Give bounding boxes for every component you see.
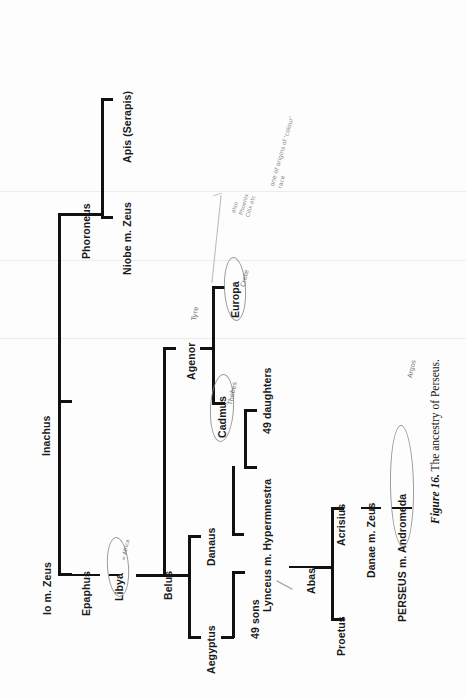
node-epaphus: Epaphus — [81, 571, 92, 616]
edge-to-49-sons — [232, 571, 245, 574]
figure-page: Inachus Phoroneus Io m. Zeus Niobe m. Ze… — [0, 0, 466, 698]
edge-libya-bracket — [163, 347, 166, 576]
annotation-europa-crete: Crete — [239, 269, 251, 288]
annotation-agenor-tyre: Tyre — [190, 306, 202, 322]
edge-aegyptus-join — [221, 636, 234, 639]
node-europa: Europa — [230, 281, 241, 318]
edge-inachus-spine — [58, 400, 61, 576]
pen-mark-lynceus — [276, 580, 292, 589]
annotation-origins-note: one of origins of 'colour' race — [268, 115, 304, 189]
figure-number: Figure 16. — [429, 474, 441, 524]
edge-phoroneus-spine — [58, 213, 61, 402]
annotation-cadmus-thebes: Thebes — [226, 381, 239, 406]
pen-leader-europa — [211, 195, 221, 283]
scan-band — [0, 260, 466, 261]
edge-libya-to-spine — [136, 574, 164, 577]
edge-inachus-to-io — [58, 573, 72, 576]
edge-to-europa — [212, 286, 225, 289]
edge-belus-bracket — [188, 535, 191, 638]
edge-danaus-bracket — [232, 466, 235, 535]
edge-danaus-join — [232, 533, 244, 536]
node-belus: Belus — [163, 571, 174, 600]
node-phoroneus: Phoroneus — [81, 203, 92, 259]
node-niobe-zeus: Niobe m. Zeus — [122, 202, 133, 275]
annotation-phoenix-cilix: also Phoenix Cilix etc — [230, 190, 258, 218]
edge-agenor-join — [200, 347, 214, 350]
node-danae-zeus: Danae m. Zeus — [366, 503, 377, 578]
edge-to-apis — [101, 98, 113, 101]
edge-agenor-bracket — [212, 286, 215, 404]
edge-aegyptus-bracket — [232, 571, 235, 638]
node-aegyptus: Aegyptus — [206, 625, 217, 674]
edge-to-49-daughters — [244, 409, 257, 412]
edge-to-niobe — [101, 216, 113, 219]
figure-caption-text: The ancestry of Perseus. — [429, 359, 441, 474]
edge-to-lynceus — [244, 466, 257, 469]
scan-band — [0, 191, 466, 192]
node-perseus-andromeda: PERSEUS m. Andromeda — [397, 494, 408, 622]
node-io-zeus: Io m. Zeus — [42, 562, 53, 615]
node-agenor: Agenor — [186, 343, 197, 380]
node-apis-serapis: Apis (Serapis) — [122, 91, 133, 163]
edge-phoroneus-bracket — [101, 98, 104, 218]
edge-to-agenor — [163, 347, 176, 350]
node-danaus: Danaus — [206, 527, 217, 566]
edge-abas-bracket — [331, 507, 334, 620]
node-acrisius: Acrisius — [336, 504, 347, 546]
edge-daughters-bracket — [244, 409, 247, 468]
node-lynceus-hypermnestra: Lynceus m. Hypermnestra — [262, 479, 273, 612]
edge-to-aegyptus — [188, 636, 201, 639]
figure-caption: Figure 16. The ancestry of Perseus. — [430, 359, 442, 524]
node-proetus: Proetus — [336, 616, 347, 656]
node-49-daughters: 49 daughters — [262, 367, 273, 434]
annotation-libya-africa: = Africa — [120, 539, 132, 562]
annotation-perseus-argos: Argos — [406, 359, 418, 379]
edge-to-danaus — [188, 535, 201, 538]
node-abas: Abas — [306, 568, 317, 594]
node-libya: Libya — [114, 573, 125, 601]
scan-band — [0, 338, 466, 339]
node-inachus: Inachus — [41, 416, 52, 456]
node-49-sons: 49 sons — [250, 599, 261, 639]
